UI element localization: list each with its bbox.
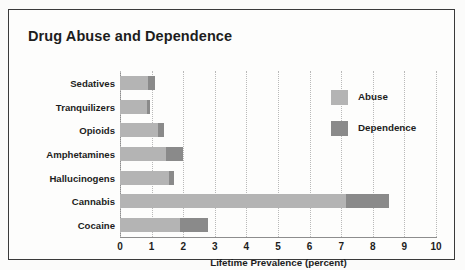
gridline-5 <box>278 71 279 237</box>
chart-frame: Drug Abuse and Dependence SedativesTranq… <box>8 9 455 260</box>
gridline-10 <box>436 71 437 237</box>
y-axis-label-amphetamines: Amphetamines <box>15 149 115 160</box>
y-axis-label-tranquilizers: Tranquilizers <box>15 102 115 113</box>
gridline-2 <box>183 71 184 237</box>
x-tick-9: 9 <box>392 241 416 252</box>
x-axis-title: Lifetime Prevalence (percent) <box>120 257 437 268</box>
bar-segment-dependence <box>169 171 174 185</box>
bar-segment-dependence <box>147 100 150 114</box>
chart-title: Drug Abuse and Dependence <box>28 28 232 44</box>
gridline-9 <box>404 71 405 237</box>
legend-swatch-abuse <box>331 90 348 105</box>
bar-segment-abuse <box>120 218 180 232</box>
bar-segment-dependence <box>346 194 389 208</box>
legend-label-abuse: Abuse <box>358 91 388 102</box>
legend-label-dependence: Dependence <box>358 122 416 133</box>
y-axis-label-cocaine: Cocaine <box>15 220 115 231</box>
x-tick-4: 4 <box>234 241 258 252</box>
y-axis-category-labels: SedativesTranquilizersOpioidsAmphetamine… <box>14 71 115 237</box>
gridline-6 <box>310 71 311 237</box>
x-tick-8: 8 <box>361 241 385 252</box>
x-tick-1: 1 <box>140 241 164 252</box>
bar-segment-abuse <box>120 171 169 185</box>
bar-segment-abuse <box>120 194 346 208</box>
x-tick-5: 5 <box>266 241 290 252</box>
y-axis-label-cannabis: Cannabis <box>15 196 115 207</box>
bar-segment-dependence <box>148 76 154 90</box>
gridline-3 <box>215 71 216 237</box>
x-tick-10: 10 <box>424 241 448 252</box>
y-axis-label-sedatives: Sedatives <box>15 78 115 89</box>
bar-segment-abuse <box>120 100 147 114</box>
x-tick-3: 3 <box>203 241 227 252</box>
x-tick-0: 0 <box>108 241 132 252</box>
legend-swatch-dependence <box>331 121 348 136</box>
bar-segment-dependence <box>166 147 183 161</box>
x-tick-6: 6 <box>298 241 322 252</box>
gridline-4 <box>246 71 247 237</box>
y-axis-label-hallucinogens: Hallucinogens <box>15 173 115 184</box>
x-axis-line <box>120 237 437 238</box>
plot-area <box>120 71 436 237</box>
bar-segment-abuse <box>120 123 158 137</box>
chart-figure: Drug Abuse and Dependence SedativesTranq… <box>0 0 465 270</box>
bar-segment-dependence <box>180 218 208 232</box>
x-tick-7: 7 <box>329 241 353 252</box>
bar-segment-dependence <box>158 123 164 137</box>
y-axis-label-opioids: Opioids <box>15 125 115 136</box>
bar-segment-abuse <box>120 76 148 90</box>
bar-segment-abuse <box>120 147 166 161</box>
x-tick-2: 2 <box>171 241 195 252</box>
